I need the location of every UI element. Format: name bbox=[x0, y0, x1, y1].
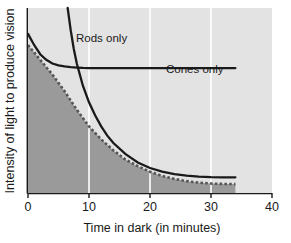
y-axis-title: Intensity of light to produce vision bbox=[3, 9, 17, 194]
chart-canvas: 0 10 20 30 40 Time in dark (in minutes) … bbox=[0, 0, 291, 243]
annotation-cones-only: Cones only bbox=[166, 63, 224, 75]
x-axis-title: Time in dark (in minutes) bbox=[83, 221, 220, 235]
x-tick-label-30: 30 bbox=[204, 200, 218, 214]
x-tick-label-10: 10 bbox=[82, 200, 96, 214]
dark-adaptation-chart: 0 10 20 30 40 Time in dark (in minutes) … bbox=[0, 0, 291, 243]
x-tick-label-20: 20 bbox=[143, 200, 157, 214]
annotation-rods-only: Rods only bbox=[76, 32, 127, 44]
x-tick-label-0: 0 bbox=[25, 200, 32, 214]
x-tick-label-40: 40 bbox=[265, 200, 279, 214]
